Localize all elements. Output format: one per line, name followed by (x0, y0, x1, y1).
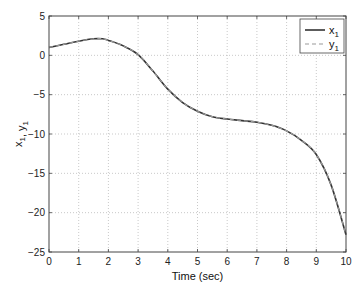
y-tick-label: −5 (34, 89, 46, 100)
x-axis-label: Time (sec) (172, 270, 224, 282)
x-tick-label: 2 (106, 256, 112, 267)
y-tick-label: −20 (28, 207, 45, 218)
y-tick-label: −10 (28, 129, 45, 140)
x-tick-label: 3 (135, 256, 141, 267)
y-tick-label: −25 (28, 247, 45, 258)
y-tick-label: −15 (28, 168, 45, 179)
x-tick-label: 9 (314, 256, 320, 267)
y-tick-label: 5 (39, 11, 45, 22)
x-tick-label: 6 (224, 256, 230, 267)
x-tick-label: 8 (284, 256, 290, 267)
x-tick-label: 7 (254, 256, 260, 267)
x-tick-label: 5 (195, 256, 201, 267)
legend: x1y1 (300, 19, 344, 53)
x-tick-label: 4 (165, 256, 171, 267)
line-chart: 01234567891050−5−10−15−20−25 Time (sec) … (0, 0, 363, 294)
x-tick-label: 0 (46, 256, 52, 267)
y-tick-label: 0 (39, 50, 45, 61)
x-tick-label: 1 (76, 256, 82, 267)
x-tick-label: 10 (340, 256, 352, 267)
